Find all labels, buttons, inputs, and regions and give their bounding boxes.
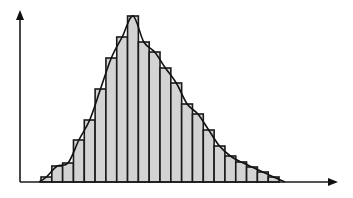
- histogram-bar: [73, 140, 84, 182]
- histogram-bar: [203, 130, 214, 182]
- x-axis-arrow-icon: [328, 178, 338, 186]
- histogram-bar: [84, 120, 95, 182]
- histogram-bar: [95, 89, 106, 182]
- histogram-bar: [128, 16, 139, 182]
- histogram-bar: [214, 146, 225, 182]
- histogram-bar: [192, 114, 203, 182]
- histogram-bar: [106, 58, 117, 182]
- histogram-bar: [138, 42, 149, 182]
- histogram-bar: [149, 52, 160, 182]
- histogram-bar: [160, 68, 171, 182]
- histogram-chart: [0, 0, 353, 198]
- histogram-bar: [236, 162, 247, 182]
- y-axis-arrow-icon: [16, 10, 24, 20]
- histogram-bar: [182, 104, 193, 182]
- histogram-bars: [41, 16, 279, 182]
- histogram-bar: [171, 83, 182, 182]
- histogram-bar: [225, 156, 236, 182]
- histogram-bar: [117, 37, 128, 182]
